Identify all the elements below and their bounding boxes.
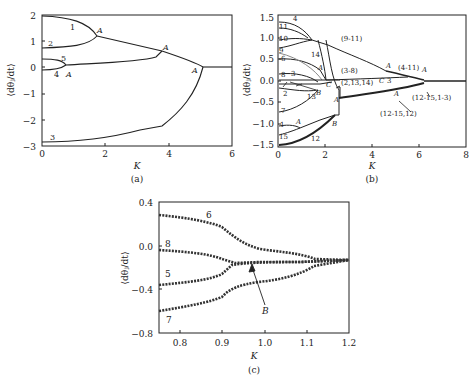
x-label-c: K	[250, 351, 259, 361]
svg-text:6: 6	[281, 55, 286, 63]
svg-text:A: A	[295, 118, 301, 126]
svg-text:0.4: 0.4	[139, 198, 154, 208]
svg-text:2: 2	[48, 39, 53, 48]
svg-text:−1: −1	[23, 89, 36, 99]
svg-text:6: 6	[206, 210, 212, 220]
series-8	[159, 250, 349, 263]
svg-text:B: B	[315, 89, 321, 97]
x-ticks-b: 0 2 4 6 8	[275, 150, 469, 160]
svg-text:13: 13	[307, 93, 316, 101]
y-label-b: ⟨dθⱼ/dt⟩	[242, 64, 252, 97]
plot-area-a: 2 1 0 −1 −2 −3 0 2 4 6 K (a) ⟨dθⱼ/dt⟩ 12…	[6, 11, 235, 184]
svg-text:3: 3	[50, 133, 55, 142]
svg-text:0.0: 0.0	[260, 76, 275, 86]
markers-c	[159, 215, 349, 311]
svg-text:C: C	[379, 77, 385, 85]
caption-b: (b)	[366, 174, 379, 184]
svg-text:−2: −2	[23, 116, 36, 126]
svg-text:0.8: 0.8	[173, 338, 188, 348]
svg-text:1.1: 1.1	[300, 338, 314, 348]
svg-text:A: A	[191, 66, 198, 75]
svg-text:7: 7	[166, 315, 172, 325]
plot-area-c: 0.4 0.0 −0.4 −0.8 0.8 0.9 1.0 1.1 1.2 K …	[120, 198, 356, 375]
y-label-c: ⟨dθⱼ/dt⟩	[120, 252, 130, 285]
svg-text:14: 14	[311, 51, 320, 59]
svg-text:1: 1	[280, 121, 284, 129]
svg-text:5: 5	[165, 269, 171, 279]
svg-text:(2,13,14): (2,13,14)	[341, 79, 373, 87]
svg-text:0: 0	[275, 150, 281, 160]
svg-text:A: A	[96, 26, 103, 35]
svg-text:0: 0	[39, 149, 45, 159]
svg-text:A: A	[317, 64, 323, 72]
svg-text:1.0: 1.0	[260, 33, 275, 43]
svg-text:A: A	[421, 66, 427, 74]
svg-text:(4-11): (4-11)	[398, 64, 419, 72]
svg-text:−1.5: −1.5	[252, 140, 274, 150]
svg-text:(12-15,12): (12-15,12)	[380, 110, 417, 118]
svg-text:8: 8	[281, 71, 285, 79]
svg-text:9: 9	[279, 47, 283, 55]
caption-a: (a)	[131, 174, 143, 184]
svg-text:−0.8: −0.8	[131, 329, 153, 339]
y-ticks-c: 0.4 0.0 −0.4 −0.8	[131, 198, 153, 339]
y-ticks-a: 2 1 0 −1 −2 −3	[23, 11, 37, 152]
svg-text:4: 4	[369, 150, 375, 160]
svg-text:−3: −3	[23, 142, 37, 152]
plot-area-b: 1.5 1.0 0.5 0.0 −0.5 −1.0 −1.5 0 2 4 6 8…	[242, 13, 469, 184]
x-ticks-c: 0.8 0.9 1.0 1.1 1.2	[173, 338, 356, 348]
svg-text:1.0: 1.0	[258, 338, 273, 348]
svg-text:2: 2	[30, 11, 36, 21]
annotations-b: 41110 9614 832 1371 1512 (9-11)(3-8) (4-…	[279, 15, 451, 143]
svg-text:5: 5	[61, 54, 66, 63]
svg-text:2: 2	[102, 149, 108, 159]
svg-text:11: 11	[279, 23, 288, 31]
svg-text:10: 10	[279, 35, 288, 43]
svg-text:0.5: 0.5	[260, 54, 275, 64]
svg-text:6: 6	[416, 150, 422, 160]
chart-a: 2 1 0 −1 −2 −3 0 2 4 6 K (a) ⟨dθⱼ/dt⟩ 12…	[0, 0, 240, 190]
svg-text:0: 0	[30, 63, 36, 73]
chart-c: 0.4 0.0 −0.4 −0.8 0.8 0.9 1.0 1.1 1.2 K …	[100, 190, 360, 383]
svg-text:B: B	[331, 120, 337, 128]
svg-text:2: 2	[322, 150, 328, 160]
curve-merged-1245	[162, 51, 203, 67]
svg-text:A: A	[65, 70, 72, 79]
x-label-b: K	[368, 161, 377, 171]
svg-text:(3-8): (3-8)	[341, 67, 358, 75]
svg-text:(9-11): (9-11)	[341, 35, 362, 43]
svg-text:1.2: 1.2	[342, 338, 356, 348]
x-label-a: K	[133, 161, 142, 171]
x-ticks-a: 0 2 4 6	[39, 149, 235, 159]
svg-text:B: B	[261, 306, 269, 316]
annotations-a: 125 43 AA AA	[48, 23, 198, 142]
y-ticks-b: 1.5 1.0 0.5 0.0 −0.5 −1.0 −1.5	[252, 13, 274, 150]
curve-merged-12	[97, 36, 162, 51]
svg-text:1.5: 1.5	[260, 13, 275, 23]
svg-text:1: 1	[70, 23, 75, 32]
svg-text:0.0: 0.0	[139, 242, 154, 252]
svg-text:3: 3	[387, 77, 391, 85]
series-6	[159, 215, 349, 260]
svg-text:−1.0: −1.0	[252, 119, 274, 129]
svg-text:2: 2	[283, 90, 287, 98]
svg-text:4: 4	[293, 15, 298, 23]
svg-text:8: 8	[463, 150, 469, 160]
chart-b: 1.5 1.0 0.5 0.0 −0.5 −1.0 −1.5 0 2 4 6 8…	[240, 0, 475, 190]
svg-text:15: 15	[279, 133, 288, 141]
svg-text:(12-15,1-3): (12-15,1-3)	[412, 94, 451, 102]
y-label-a: ⟨dθⱼ/dt⟩	[6, 64, 16, 97]
svg-text:−0.4: −0.4	[131, 285, 153, 295]
svg-text:3: 3	[291, 70, 295, 78]
svg-text:A: A	[393, 90, 399, 98]
svg-text:6: 6	[229, 149, 235, 159]
svg-text:4: 4	[54, 70, 59, 79]
svg-text:−0.5: −0.5	[252, 97, 274, 107]
svg-text:A: A	[162, 43, 169, 52]
curve-merged-45	[66, 51, 162, 65]
svg-text:1: 1	[30, 37, 36, 47]
svg-text:A: A	[333, 96, 339, 104]
svg-text:A: A	[385, 62, 391, 70]
caption-c: (c)	[248, 365, 260, 375]
svg-text:12: 12	[311, 135, 320, 143]
